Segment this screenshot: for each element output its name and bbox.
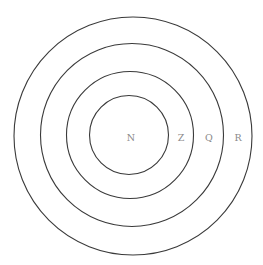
- label-inner: N: [127, 132, 135, 143]
- concentric-circles-diagram: N Z Q R: [0, 0, 263, 265]
- label-outer: R: [234, 132, 242, 143]
- label-third: Q: [205, 132, 213, 143]
- label-second: Z: [178, 132, 185, 143]
